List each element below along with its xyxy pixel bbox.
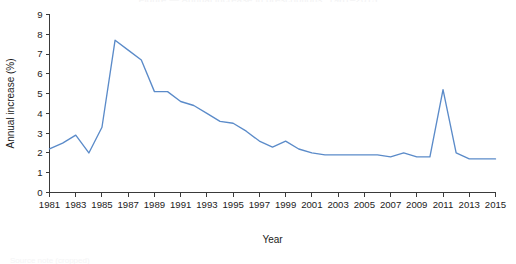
x-axis-ticks: 1981198319851987198919911993199519971999… (39, 193, 506, 211)
figure-title-cropped: Figure — Annual increase in prescription… (0, 0, 516, 2)
data-series-line (50, 40, 496, 159)
y-tick-label: 5 (37, 88, 42, 99)
x-tick-label: 1983 (65, 199, 86, 210)
x-tick-label: 2005 (354, 199, 375, 210)
x-tick-label: 1985 (91, 199, 112, 210)
x-tick-label: 1987 (118, 199, 139, 210)
x-tick-label: 1989 (144, 199, 165, 210)
x-tick-label: 1993 (196, 199, 217, 210)
x-tick-label: 2001 (301, 199, 322, 210)
y-tick-label: 4 (37, 108, 43, 119)
x-tick-label: 2013 (459, 199, 480, 210)
x-tick-label: 2003 (327, 199, 348, 210)
x-tick-label: 1999 (275, 199, 296, 210)
y-axis-title: Annual increase (%) (5, 58, 16, 148)
x-tick-label: 1981 (39, 199, 60, 210)
y-tick-label: 6 (37, 68, 42, 79)
x-tick-label: 2015 (485, 199, 506, 210)
x-tick-label: 1991 (170, 199, 191, 210)
figure-caption-cropped: Source note (cropped) (10, 256, 510, 264)
x-axis-title: Year (262, 234, 283, 245)
y-tick-label: 1 (37, 167, 42, 178)
y-tick-label: 3 (37, 128, 42, 139)
x-tick-label: 2007 (380, 199, 401, 210)
y-tick-label: 2 (37, 147, 42, 158)
y-tick-label: 9 (37, 9, 42, 20)
x-tick-label: 1997 (249, 199, 270, 210)
x-tick-label: 2011 (433, 199, 454, 210)
y-tick-label: 7 (37, 48, 42, 59)
y-axis-ticks: 0123456789 (37, 9, 49, 198)
x-tick-label: 2009 (406, 199, 427, 210)
y-tick-label: 0 (37, 187, 42, 198)
x-tick-label: 1995 (222, 199, 243, 210)
y-tick-label: 8 (37, 29, 42, 40)
